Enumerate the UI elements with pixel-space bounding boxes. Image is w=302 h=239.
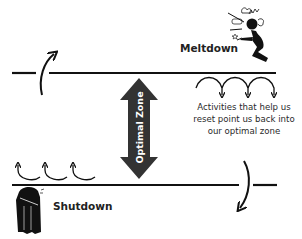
reset-text-line: our optimal zone	[186, 125, 302, 137]
shutdown-person-icon	[16, 187, 44, 234]
reset-text-line: Activities that help us	[186, 101, 302, 113]
meltdown-label: Meltdown	[180, 42, 238, 54]
bottom-reset-arrows	[18, 165, 95, 180]
optimal-zone-label: Optimal Zone	[134, 88, 145, 168]
reset-arrow-down-icon	[196, 78, 222, 96]
curved-arrow-up-icon	[41, 54, 54, 95]
top-reset-arrows	[196, 78, 274, 96]
reset-arrow-up-icon	[45, 165, 67, 180]
reset-arrow-down-icon	[222, 78, 248, 96]
reset-text-line: reset point us back into	[186, 113, 302, 125]
reset-arrow-up-icon	[18, 165, 40, 180]
shutdown-label: Shutdown	[53, 200, 112, 212]
reset-activities-text: Activities that help us reset point us b…	[186, 101, 302, 137]
curved-arrow-down-icon	[240, 161, 249, 208]
reset-arrow-down-icon	[248, 78, 274, 96]
reset-arrow-up-icon	[73, 165, 95, 180]
